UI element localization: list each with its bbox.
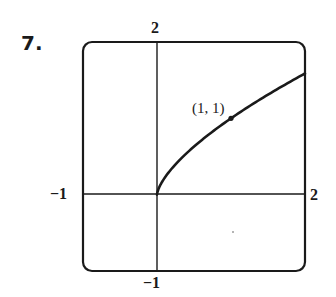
y-max-label: 2 bbox=[151, 19, 159, 37]
x-max-label: 2 bbox=[310, 186, 318, 204]
graph-window bbox=[0, 0, 336, 297]
scan-speck bbox=[232, 231, 234, 233]
x-min-label: −1 bbox=[50, 185, 67, 203]
y-min-label: −1 bbox=[143, 274, 160, 292]
point-label: (1, 1) bbox=[192, 100, 225, 117]
function-curve bbox=[157, 74, 305, 195]
viewing-window-frame bbox=[83, 42, 305, 271]
point-marker bbox=[228, 116, 233, 121]
